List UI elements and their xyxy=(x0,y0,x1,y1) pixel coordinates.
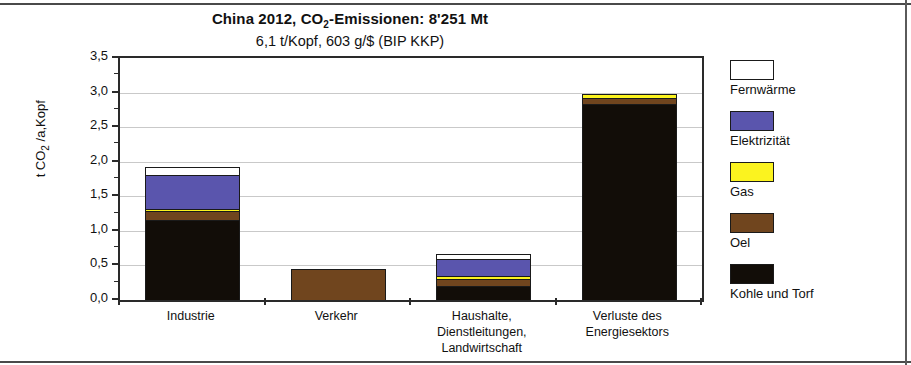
x-axis-label-line: Dienstleitungen, xyxy=(407,324,557,340)
plot-area xyxy=(118,56,704,302)
bar-segment-elektrizit-t xyxy=(437,259,530,276)
x-axis-label-4: Verluste desEnergiesektors xyxy=(552,308,702,340)
y-axis-minor-tick xyxy=(114,246,119,247)
bar-segment-fernw-rme xyxy=(146,168,239,176)
y-axis-major-tick xyxy=(112,263,119,265)
y-axis-tick-label: 3,0 xyxy=(74,83,108,98)
bar-segment-oel xyxy=(292,270,385,300)
y-axis-minor-tick xyxy=(114,281,119,282)
bar-2 xyxy=(291,269,386,300)
chart-legend: FernwärmeElektrizitätGasOelKohle und Tor… xyxy=(730,60,900,310)
chart-subtitle: 6,1 t/Kopf, 603 g/$ (BIP KKP) xyxy=(0,33,700,49)
chart-page: China 2012, CO2-Emissionen: 8'251 Mt 6,1… xyxy=(0,0,911,365)
x-axis-label-1: Industrie xyxy=(116,308,266,324)
legend-swatch-icon xyxy=(730,60,774,80)
scan-frame-right-rule xyxy=(905,0,907,365)
legend-label: Oel xyxy=(730,235,900,250)
x-axis-tick xyxy=(555,298,557,305)
x-axis-label-2: Verkehr xyxy=(261,308,411,324)
y-axis-tick-label: 0,0 xyxy=(74,290,108,305)
bar-segment-kohle-und-torf xyxy=(583,104,676,300)
bar-segment-oel xyxy=(146,211,239,220)
bar-segment-elektrizit-t xyxy=(146,175,239,209)
y-axis-tick-label: 0,5 xyxy=(74,255,108,270)
legend-label: Elektrizität xyxy=(730,133,900,148)
bar-1 xyxy=(145,167,240,300)
legend-swatch-icon xyxy=(730,264,774,284)
chart-title-prefix: China 2012, CO xyxy=(212,10,323,27)
legend-label: Kohle und Torf xyxy=(730,286,900,301)
bar-segment-oel xyxy=(437,279,530,286)
y-axis-major-tick xyxy=(112,194,119,196)
chart-title: China 2012, CO2-Emissionen: 8'251 Mt xyxy=(0,10,700,30)
x-axis-label-line: Energiesektors xyxy=(552,324,702,340)
bar-segment-kohle-und-torf xyxy=(437,286,530,300)
legend-item-gas[interactable]: Gas xyxy=(730,162,900,199)
y-axis-title-prefix: t CO xyxy=(33,151,48,178)
y-axis-title-suffix: /a,Kopf xyxy=(33,100,48,145)
legend-item-fernw-rme[interactable]: Fernwärme xyxy=(730,60,900,97)
y-axis-title-subscript: 2 xyxy=(40,145,51,151)
x-axis-label-3: Haushalte,Dienstleitungen,Landwirtschaft xyxy=(407,308,557,356)
y-axis-major-tick xyxy=(112,229,119,231)
legend-item-elektrizit-t[interactable]: Elektrizität xyxy=(730,111,900,148)
y-axis-minor-tick xyxy=(114,177,119,178)
x-axis-label-line: Verluste des xyxy=(552,308,702,324)
bar-3 xyxy=(436,254,531,300)
legend-item-kohle-und-torf[interactable]: Kohle und Torf xyxy=(730,264,900,301)
bar-segment-kohle-und-torf xyxy=(146,220,239,300)
y-axis-tick-label: 1,5 xyxy=(74,186,108,201)
bar-4 xyxy=(582,94,677,300)
scan-frame-top-rule xyxy=(0,3,911,5)
x-axis-tick xyxy=(409,298,411,305)
y-axis-minor-tick xyxy=(114,212,119,213)
x-axis-tick xyxy=(700,298,702,305)
y-axis-minor-tick xyxy=(114,108,119,109)
x-axis-label-line: Landwirtschaft xyxy=(407,340,557,356)
y-axis-tick-label: 2,5 xyxy=(74,117,108,132)
x-axis-label-line: Verkehr xyxy=(261,308,411,324)
y-axis-tick-label: 3,5 xyxy=(74,48,108,63)
legend-swatch-icon xyxy=(730,213,774,233)
y-axis-tick-label: 1,0 xyxy=(74,221,108,236)
legend-swatch-icon xyxy=(730,162,774,182)
y-axis-major-tick xyxy=(112,91,119,93)
y-axis-major-tick xyxy=(112,125,119,127)
x-axis-label-line: Industrie xyxy=(116,308,266,324)
y-axis-minor-tick xyxy=(114,73,119,74)
legend-swatch-icon xyxy=(730,111,774,131)
chart-title-suffix: -Emissionen: 8'251 Mt xyxy=(329,10,488,27)
y-axis-tick-label: 2,0 xyxy=(74,152,108,167)
legend-label: Gas xyxy=(730,184,900,199)
x-axis-tick xyxy=(118,298,120,305)
y-axis-minor-tick xyxy=(114,142,119,143)
y-axis-major-tick xyxy=(112,56,119,58)
y-axis-major-tick xyxy=(112,160,119,162)
y-axis-title: t CO2 /a,Kopf xyxy=(33,59,51,219)
x-axis-label-line: Haushalte, xyxy=(407,308,557,324)
legend-label: Fernwärme xyxy=(730,82,900,97)
y-axis-tick-labels: 0,00,51,01,52,02,53,03,5 xyxy=(74,56,108,298)
legend-item-oel[interactable]: Oel xyxy=(730,213,900,250)
scan-frame-bottom-rule xyxy=(0,361,911,363)
x-axis-tick xyxy=(264,298,266,305)
